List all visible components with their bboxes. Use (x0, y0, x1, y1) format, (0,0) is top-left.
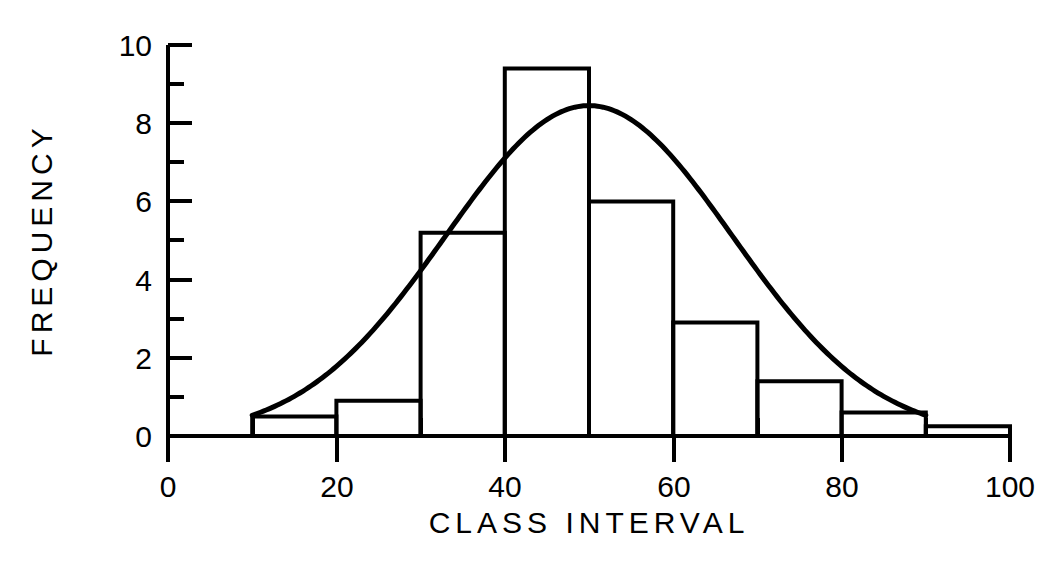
x-tick-label-0: 0 (160, 470, 177, 503)
x-axis-title: CLASS INTERVAL (429, 506, 750, 539)
y-tick-label-6: 6 (135, 185, 152, 218)
y-axis-title: FREQUENCY (25, 123, 58, 356)
x-tick-label-80: 80 (825, 470, 858, 503)
x-tick-label-100: 100 (985, 470, 1035, 503)
y-tick-label-4: 4 (135, 264, 152, 297)
x-tick-label-40: 40 (488, 470, 521, 503)
y-tick-label-0: 0 (135, 420, 152, 453)
y-tick-label-8: 8 (135, 107, 152, 140)
chart-figure: 10 8 6 4 2 0 (0, 0, 1052, 574)
chart-background (0, 0, 1052, 574)
y-tick-label-10: 10 (119, 29, 152, 62)
x-tick-label-20: 20 (320, 470, 353, 503)
x-tick-label-60: 60 (657, 470, 690, 503)
histogram-chart: 10 8 6 4 2 0 (0, 0, 1052, 574)
y-tick-label-2: 2 (135, 342, 152, 375)
